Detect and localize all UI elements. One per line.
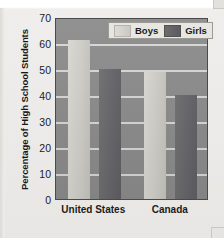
bar-united-states-girls (99, 69, 121, 199)
legend-label-girls: Girls (185, 25, 207, 36)
bar-canada-girls (175, 95, 197, 199)
legend-item-girls: Girls (164, 25, 207, 37)
bar-chart: Percentage of High School Students 01020… (0, 8, 224, 238)
plot-area (55, 18, 208, 200)
chart-page: Percentage of High School Students 01020… (0, 0, 224, 238)
y-tick-label-20: 20 (39, 142, 51, 154)
y-tick-label-70: 70 (39, 12, 51, 24)
bar-canada-boys (144, 72, 166, 199)
chart-legend: Boys Girls (108, 22, 213, 39)
legend-item-boys: Boys (114, 25, 158, 37)
y-tick-label-60: 60 (39, 38, 51, 50)
legend-swatch-girls (164, 25, 181, 37)
y-axis-title: Percentage of High School Students (19, 20, 30, 200)
legend-swatch-boys (114, 25, 131, 37)
bar-united-states-boys (68, 40, 90, 199)
y-tick-label-40: 40 (39, 90, 51, 102)
legend-label-boys: Boys (135, 25, 158, 36)
x-tick-label-canada: Canada (120, 204, 220, 215)
y-tick-label-50: 50 (39, 64, 51, 76)
y-tick-label-30: 30 (39, 116, 51, 128)
y-tick-label-10: 10 (39, 168, 51, 180)
